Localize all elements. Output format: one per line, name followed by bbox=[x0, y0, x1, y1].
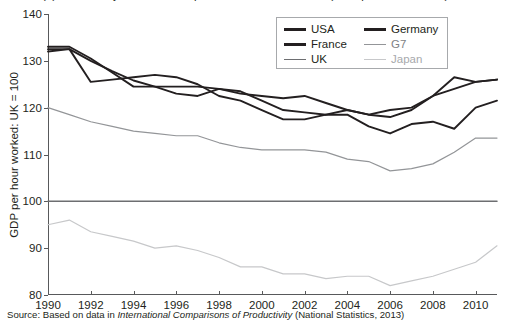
chart-legend: USAGermanyFranceG7UKJapan bbox=[276, 17, 448, 69]
legend-item-usa[interactable]: USA bbox=[284, 22, 360, 37]
chart-title-text: (b) Productivity in the UK compared with… bbox=[42, 0, 448, 1]
series-line-japan bbox=[48, 220, 497, 286]
y-axis-title-text: GDP per hour worked: UK = 100 bbox=[8, 72, 20, 238]
source-note: Source: Based on data in International C… bbox=[7, 309, 404, 320]
legend-label-g7: G7 bbox=[391, 39, 406, 51]
source-prefix: Source: Based on data in bbox=[7, 309, 117, 320]
y-tick-label: 100 bbox=[23, 195, 43, 207]
source-suffix: (National Statistics, 2013) bbox=[292, 309, 404, 320]
y-axis-title: GDP per hour worked: UK = 100 bbox=[6, 14, 22, 295]
legend-swatch-usa bbox=[284, 28, 306, 30]
y-tick-label: 90 bbox=[29, 242, 42, 254]
x-tick-label: 2008 bbox=[420, 299, 446, 311]
source-publication-title: International Comparisons of Productivit… bbox=[117, 309, 292, 320]
legend-label-uk: UK bbox=[311, 54, 327, 66]
legend-swatch-japan bbox=[364, 59, 386, 61]
legend-item-japan[interactable]: Japan bbox=[364, 52, 440, 67]
productivity-line-chart-figure: (b) Productivity in the UK compared with… bbox=[0, 0, 507, 326]
y-tick-label: 130 bbox=[23, 55, 43, 67]
legend-swatch-g7 bbox=[364, 44, 386, 46]
legend-item-uk[interactable]: UK bbox=[284, 52, 360, 67]
legend-item-g7[interactable]: G7 bbox=[364, 37, 440, 52]
legend-item-germany[interactable]: Germany bbox=[364, 22, 440, 37]
y-tick-label: 120 bbox=[23, 102, 43, 114]
legend-items: USAGermanyFranceG7UKJapan bbox=[284, 22, 440, 67]
y-tick-label: 110 bbox=[23, 149, 42, 161]
legend-swatch-france bbox=[284, 43, 306, 45]
chart-title-clipped: (b) Productivity in the UK compared with… bbox=[0, 0, 507, 11]
legend-label-france: France bbox=[311, 39, 347, 51]
y-tick-mark bbox=[44, 295, 48, 296]
legend-label-japan: Japan bbox=[391, 54, 422, 66]
y-tick-label: 140 bbox=[23, 8, 43, 20]
series-line-g7 bbox=[48, 108, 497, 171]
legend-label-usa: USA bbox=[311, 24, 335, 36]
legend-label-germany: Germany bbox=[391, 24, 438, 36]
x-tick-label: 2010 bbox=[463, 299, 489, 311]
legend-swatch-uk bbox=[284, 59, 306, 61]
legend-item-france[interactable]: France bbox=[284, 37, 360, 52]
legend-swatch-germany bbox=[364, 28, 386, 30]
